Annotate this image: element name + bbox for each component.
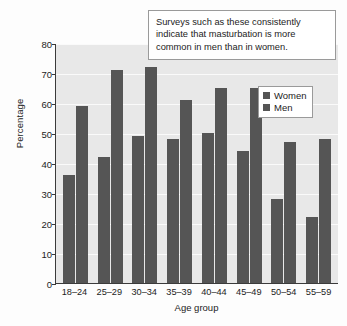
annotation-line: indicate that masturbation is more: [156, 28, 328, 40]
bar-group: [58, 44, 93, 283]
bars-layer: [56, 44, 338, 283]
x-axis-tick-label: 50–54: [266, 287, 301, 297]
x-axis-tick-label: 40–44: [197, 287, 232, 297]
legend-label: Women: [274, 90, 307, 102]
x-axis-tick-label: 25–29: [92, 287, 127, 297]
bar-men-25-29: [111, 70, 123, 283]
bar-men-50-54: [284, 142, 296, 283]
y-axis-title: Percentage: [14, 69, 25, 179]
y-axis-tick-label: 40: [26, 159, 52, 170]
x-axis-tick-label: 45–49: [231, 287, 266, 297]
bar-group: [93, 44, 128, 283]
bar-women-18-24: [63, 175, 75, 283]
chart-legend: WomenMen: [258, 86, 313, 118]
bar-men-18-24: [76, 106, 88, 283]
legend-entry-women: Women: [263, 90, 307, 102]
bar-women-45-49: [237, 151, 249, 283]
bar-group: [301, 44, 336, 283]
bar-chart-figure: Percentage 01020304050607080 18–2425–293…: [0, 0, 347, 326]
x-axis-tick-label: 35–39: [162, 287, 197, 297]
bar-men-35-39: [180, 100, 192, 283]
annotation-line: common in men than in women.: [156, 41, 328, 53]
bar-group: [232, 44, 267, 283]
bar-group: [162, 44, 197, 283]
bar-group: [128, 44, 163, 283]
x-axis-tick-label: 18–24: [57, 287, 92, 297]
legend-swatch-icon: [263, 104, 270, 111]
y-axis-tick-labels: 01020304050607080: [26, 44, 52, 284]
y-axis-tick-mark: [52, 284, 56, 285]
x-axis-tick-label: 55–59: [301, 287, 336, 297]
y-axis-tick-label: 80: [26, 39, 52, 50]
x-axis-title: Age group: [55, 302, 338, 313]
y-axis-tick-label: 30: [26, 189, 52, 200]
bar-women-25-29: [98, 157, 110, 283]
bar-men-40-44: [215, 88, 227, 283]
y-axis-tick-label: 10: [26, 249, 52, 260]
y-axis-tick-label: 60: [26, 99, 52, 110]
x-axis-tick-labels: 18–2425–2930–3435–3940–4445–4950–5455–59: [55, 287, 338, 297]
legend-entry-men: Men: [263, 102, 307, 114]
legend-label: Men: [274, 102, 292, 114]
plot-area: [55, 44, 338, 284]
bar-women-35-39: [167, 139, 179, 283]
bar-women-50-54: [271, 199, 283, 283]
x-axis-tick-label: 30–34: [127, 287, 162, 297]
y-axis-tick-label: 0: [26, 279, 52, 290]
annotation-line: Surveys such as these consistently: [156, 16, 328, 28]
bar-men-30-34: [145, 67, 157, 283]
bar-women-55-59: [306, 217, 318, 283]
bar-group: [267, 44, 302, 283]
bar-men-55-59: [319, 139, 331, 283]
y-axis-tick-label: 70: [26, 69, 52, 80]
legend-swatch-icon: [263, 92, 270, 99]
bar-group: [197, 44, 232, 283]
survey-callout-annotation: Surveys such as these consistentlyindica…: [148, 10, 336, 60]
bar-women-30-34: [132, 136, 144, 283]
bar-women-40-44: [202, 133, 214, 283]
y-axis-tick-label: 20: [26, 219, 52, 230]
y-axis-tick-label: 50: [26, 129, 52, 140]
